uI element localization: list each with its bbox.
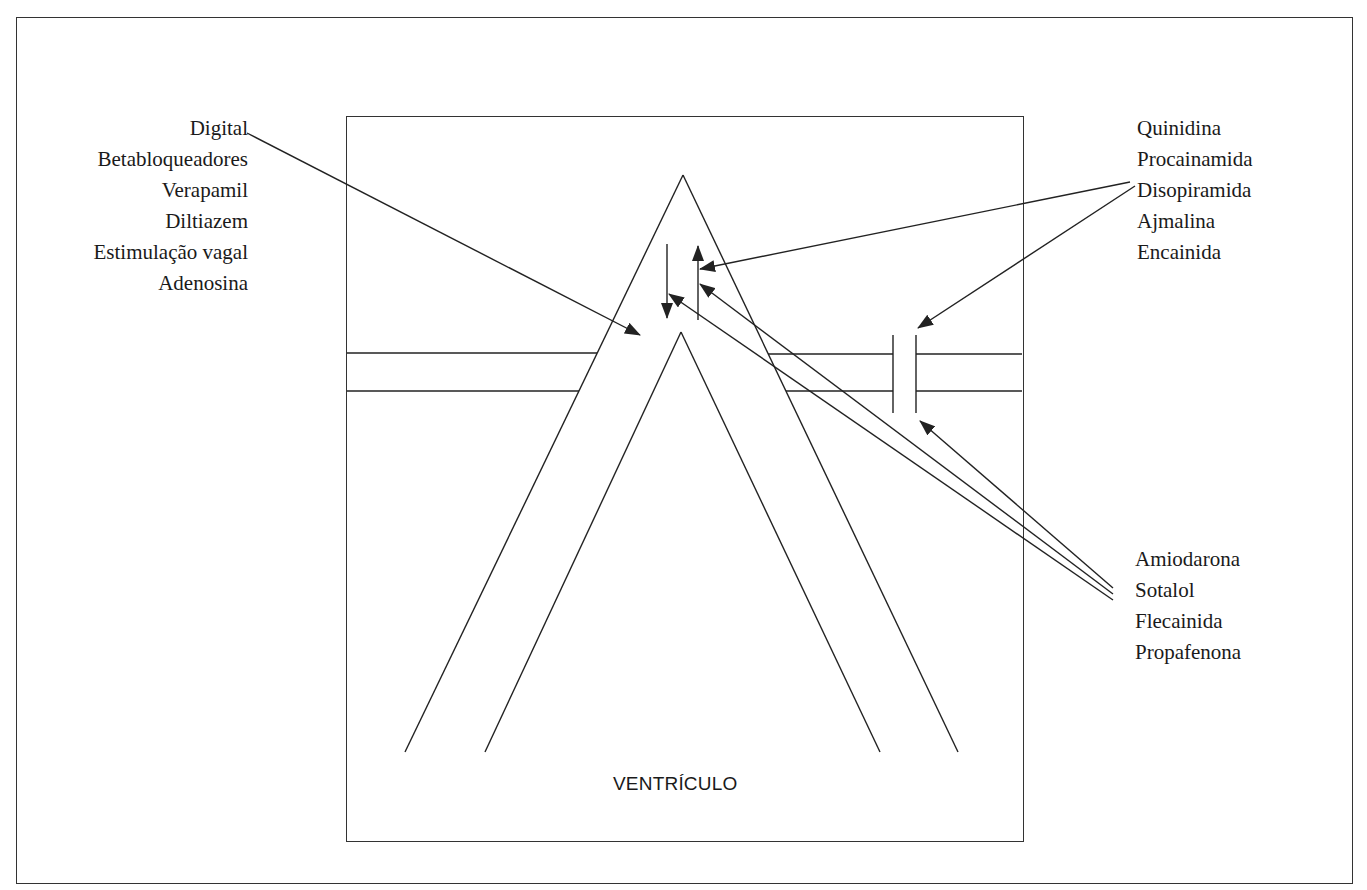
drug-label: Digital [93,113,248,144]
ventricle-label: VENTRÍCULO [613,773,737,795]
outer-right-edge [683,175,958,752]
antiarrhythmic-sites-diagram: Digital Betabloqueadores Verapamil Dilti… [0,0,1367,890]
label-group-class-ic-iii-drugs: Amiodarona Sotalol Flecainida Propafenon… [1135,544,1241,668]
drug-label: Propafenona [1135,637,1241,668]
drug-label: Adenosina [93,268,248,299]
outer-left-edge [405,175,683,752]
drug-label: Flecainida [1135,606,1241,637]
pointer-digital-group [247,133,640,335]
pointer-amiodarona-to-accessory [920,421,1113,588]
drug-label: Sotalol [1135,575,1241,606]
drug-label: Estimulação vagal [93,237,248,268]
drug-label: Procainamida [1137,144,1252,175]
drug-label: Disopiramida [1137,175,1252,206]
inner-right-edge [681,332,880,752]
pointer-quinidina-to-retrograde [700,182,1130,269]
label-group-av-node-drugs: Digital Betabloqueadores Verapamil Dilti… [93,113,248,299]
pointer-amiodarona-to-retrograde [700,284,1113,594]
drug-label: Ajmalina [1137,206,1252,237]
drug-label: Verapamil [93,175,248,206]
drug-label: Diltiazem [93,206,248,237]
drug-label: Betabloqueadores [93,144,248,175]
inner-left-edge [485,332,681,752]
drug-label: Encainida [1137,237,1252,268]
pointer-quinidina-to-accessory [918,186,1135,328]
label-group-class-ia-drugs: Quinidina Procainamida Disopiramida Ajma… [1137,113,1252,268]
drug-label: Quinidina [1137,113,1252,144]
drug-label: Amiodarona [1135,544,1241,575]
